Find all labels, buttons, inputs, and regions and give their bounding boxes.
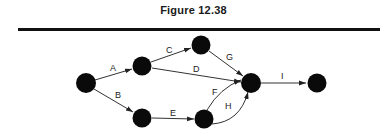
node-1 [76,73,96,93]
node-7 [195,110,214,129]
edge-label-g: G [226,52,233,62]
network-diagram: A B C D E F G H I [0,0,387,137]
edge-label-f: F [212,87,218,97]
edge-e [152,118,194,119]
node-3 [192,36,211,55]
node-5 [308,74,327,93]
node-6 [133,109,152,128]
edge-label-c: C [166,45,173,55]
edge-label-d: D [193,64,200,74]
edge-label-a: A [110,63,116,73]
node-4 [241,73,261,93]
edge-b [94,89,133,112]
node-2 [133,57,152,76]
edge-label-b: B [115,90,121,100]
edge-label-h: H [225,101,232,111]
edge-label-i: I [281,71,284,81]
edge-label-e: E [170,108,176,118]
